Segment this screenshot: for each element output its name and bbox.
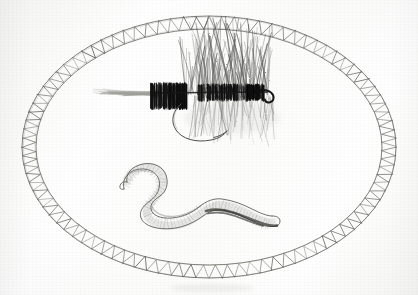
frame-inner-ellipse: [36, 29, 382, 265]
fly-rear-band: [151, 83, 187, 109]
bottom-smudge: [170, 284, 254, 292]
fishing-fly: [93, 16, 280, 146]
fly-head: [248, 84, 262, 99]
earthworm: [120, 164, 280, 229]
worm-interior-tone: [126, 167, 276, 226]
fly-smudge: [184, 102, 280, 134]
fly-hackle-upper: [179, 16, 273, 95]
artwork-svg: [0, 0, 418, 295]
drawing-canvas: A hand-drawn pencil sketch showing an ar…: [0, 0, 418, 295]
